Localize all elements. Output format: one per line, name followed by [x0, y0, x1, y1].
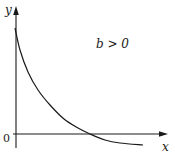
x-axis-arrow-icon: [159, 131, 168, 137]
y-axis-label: y: [4, 3, 12, 17]
condition-label: b > 0: [96, 37, 129, 51]
x-axis-label: x: [162, 140, 169, 154]
y-axis-arrow-icon: [13, 6, 19, 15]
graph-figure: y x 0 b > 0: [0, 0, 175, 158]
origin-label: 0: [3, 132, 10, 145]
